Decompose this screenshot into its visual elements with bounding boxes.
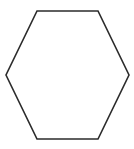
hexagon-shape [6, 11, 129, 139]
hexagon-svg: Regular hexagon outline [0, 0, 134, 149]
figure-canvas: Regular hexagon outline [0, 0, 134, 149]
